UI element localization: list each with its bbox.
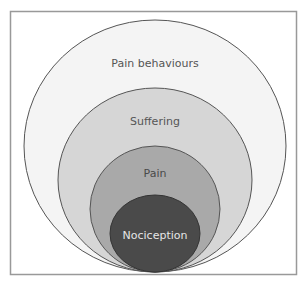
nested-circles-diagram: Pain behaviours Suffering Pain Nocicepti… [0,0,308,290]
label-pain: Pain [144,167,167,180]
label-nociception: Nociception [123,229,188,242]
label-pain-behaviours: Pain behaviours [111,57,199,70]
label-suffering: Suffering [130,115,180,128]
